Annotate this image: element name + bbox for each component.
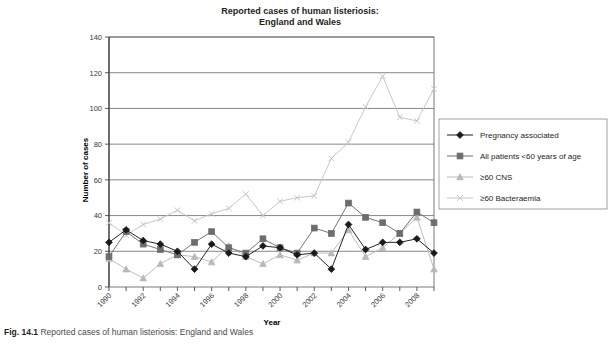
figure-caption: Fig. 14.1 Reported cases of human lister… [4, 327, 253, 337]
y-tick-label: 140 [89, 33, 102, 42]
series-diamond [106, 221, 438, 272]
x-tick-label: 1998 [232, 291, 250, 309]
x-tick-label: 1996 [198, 291, 216, 309]
y-tick-label: 120 [89, 69, 102, 78]
x-tick-labels: 1990199219941996199820002002200420062008 [95, 291, 421, 309]
x-axis-title: Year [264, 318, 281, 327]
legend-label: ≥60 CNS [480, 173, 512, 182]
series-triangle [106, 214, 438, 281]
legend-label: Pregnancy associated [480, 131, 559, 140]
y-tick-label: 40 [94, 211, 102, 220]
x-tick-label: 2004 [335, 291, 353, 309]
x-tick-label: 2008 [403, 291, 421, 309]
figure-caption-text: Reported cases of human listeriosis: Eng… [40, 327, 253, 337]
data-series-group [106, 73, 438, 280]
x-tick-label: 1990 [95, 291, 113, 309]
x-tick-label: 2000 [266, 291, 284, 309]
x-tick-label: 1994 [164, 291, 182, 309]
x-tick-label: 2006 [369, 291, 387, 309]
legend-label: ≥60 Bacteraemia [480, 194, 541, 203]
figure-number: Fig. 14.1 [4, 327, 38, 337]
legend-label: All patients <60 years of age [480, 152, 582, 161]
x-tick-marks [109, 287, 434, 291]
chart-legend: Pregnancy associatedAll patients <60 yea… [439, 119, 607, 209]
y-tick-label: 60 [94, 176, 102, 185]
line-chart: 020406080100120140 199019921994199619982… [0, 0, 614, 345]
figure-container: Reported cases of human listeriosis: Eng… [0, 0, 614, 345]
y-tick-labels: 020406080100120140 [89, 33, 102, 292]
series-cross [106, 73, 437, 238]
y-tick-label: 20 [94, 247, 102, 256]
y-tick-label: 80 [94, 140, 102, 149]
y-tick-label: 100 [89, 104, 102, 113]
y-axis-title: Number of cases [81, 137, 90, 202]
x-tick-label: 1992 [129, 291, 147, 309]
series-square [106, 200, 437, 259]
x-tick-label: 2002 [301, 291, 319, 309]
y-tick-label: 0 [98, 283, 102, 292]
